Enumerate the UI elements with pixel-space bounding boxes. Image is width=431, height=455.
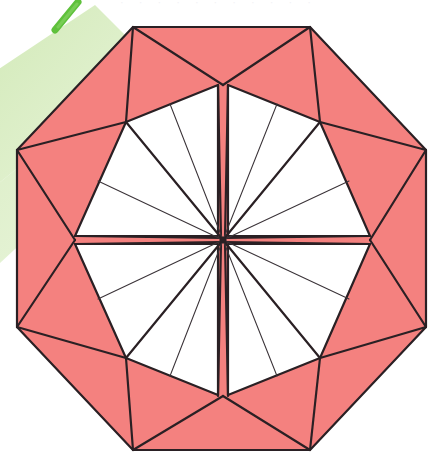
octagon-star-diagram <box>0 0 431 455</box>
hub-center-point <box>219 236 226 243</box>
figure-root: · · · · · · · · · · · <box>0 0 431 455</box>
